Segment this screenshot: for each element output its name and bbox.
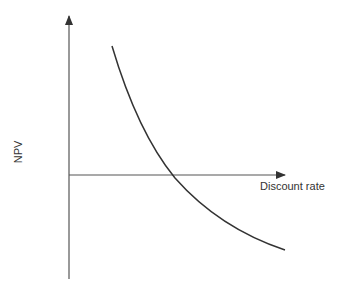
npv-curve [112, 46, 285, 250]
x-axis-label: Discount rate [260, 180, 325, 192]
y-axis-label: NPV [12, 136, 24, 168]
npv-chart [0, 0, 358, 295]
